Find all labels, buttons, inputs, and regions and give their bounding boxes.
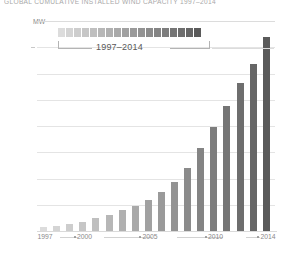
bracket-tick-left (58, 41, 59, 48)
bar-2014 (263, 37, 270, 231)
x-axis-tick-label-2000: 2000 (74, 233, 92, 241)
legend-swatch-2014 (194, 28, 201, 37)
legend-swatch-2004 (114, 28, 121, 37)
tick-dot-icon (139, 236, 141, 238)
bar-2006 (158, 192, 165, 231)
legend: 1997–2014 (0, 0, 281, 60)
legend-swatch-1999 (74, 28, 81, 37)
bar-2008 (184, 168, 191, 231)
bar-2003 (119, 210, 126, 231)
bar-2002 (106, 215, 113, 231)
gridline (37, 74, 275, 75)
bar-2007 (171, 182, 178, 231)
legend-swatch-2000 (82, 28, 89, 37)
bar-2011 (223, 106, 230, 231)
legend-trailing-rule (212, 48, 274, 49)
bar-2013 (250, 64, 257, 231)
legend-swatch-2009 (154, 28, 161, 37)
legend-gradient-strip (58, 28, 201, 37)
legend-swatch-2002 (98, 28, 105, 37)
legend-swatch-2007 (138, 28, 145, 37)
x-axis-baseline (37, 231, 277, 232)
x-axis-tick-text: 2014 (260, 233, 275, 240)
legend-swatch-2013 (186, 28, 193, 37)
legend-swatch-2006 (130, 28, 137, 37)
bar-2004 (132, 206, 139, 231)
tick-dot-icon (205, 236, 207, 238)
legend-swatch-2001 (90, 28, 97, 37)
x-axis-tick-label-1997: 1997 (38, 233, 53, 241)
bracket-line-left (58, 48, 92, 49)
bar-1997 (40, 227, 47, 231)
x-axis-tick-text: 1997 (38, 233, 53, 240)
legend-swatch-2003 (106, 28, 113, 37)
x-axis-tick-text: 2010 (208, 233, 223, 240)
x-axis-tick-text: 2005 (142, 233, 157, 240)
x-axis-tick-label-2010: 2010 (205, 233, 223, 241)
bar-1998 (53, 226, 60, 231)
legend-swatch-2012 (178, 28, 185, 37)
bar-2009 (197, 148, 204, 231)
x-axis-tick-label-2014: 2014 (257, 233, 275, 241)
bracket-tick-right (209, 41, 210, 48)
bracket-line-right (170, 48, 210, 49)
legend-swatch-2010 (162, 28, 169, 37)
chart-figure: GLOBAL CUMULATIVE INSTALLED WIND CAPACIT… (0, 0, 281, 265)
x-axis: 19972000200520102014 (0, 233, 281, 265)
x-axis-tick-label-2005: 2005 (139, 233, 157, 241)
legend-range-label: 1997–2014 (96, 42, 143, 52)
tick-dot-icon (257, 236, 259, 238)
bar-2010 (210, 127, 217, 231)
legend-swatch-1997 (58, 28, 65, 37)
bar-2001 (92, 218, 99, 231)
legend-swatch-1998 (66, 28, 73, 37)
bar-1999 (66, 224, 73, 231)
legend-swatch-2008 (146, 28, 153, 37)
legend-swatch-2011 (170, 28, 177, 37)
tick-dot-icon (74, 236, 76, 238)
legend-swatch-2005 (122, 28, 129, 37)
bar-2012 (237, 83, 244, 231)
bar-2005 (145, 200, 152, 231)
bar-2000 (79, 222, 86, 231)
x-axis-tick-text: 2000 (77, 233, 92, 240)
